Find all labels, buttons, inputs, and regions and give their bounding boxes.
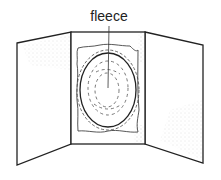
trifold-board-illustration bbox=[0, 0, 221, 180]
left-panel bbox=[17, 32, 71, 165]
right-panel bbox=[145, 32, 203, 163]
diagram: fleece bbox=[0, 0, 221, 180]
fleece-label: fleece bbox=[88, 8, 130, 24]
